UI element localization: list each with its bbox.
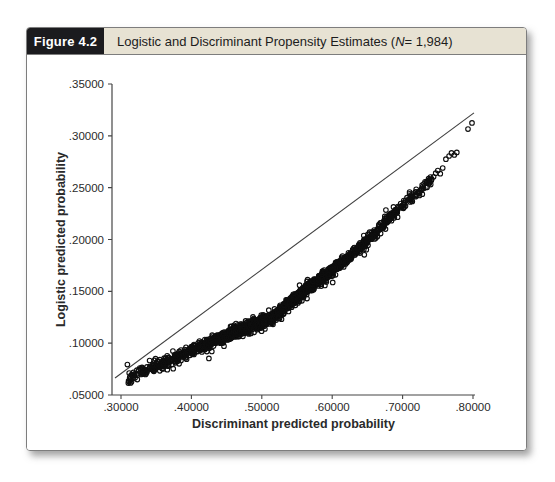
scatter-point bbox=[171, 366, 176, 371]
scatter-point bbox=[440, 166, 445, 171]
figure-title: Logistic and Discriminant Propensity Est… bbox=[104, 28, 526, 54]
scatter-plot: .30000.40000.50000.60000.70000.80000.050… bbox=[27, 55, 526, 451]
figure-number-label: Figure 4.2 bbox=[27, 28, 104, 54]
figure-title-text: Logistic and Discriminant Propensity Est… bbox=[117, 34, 395, 49]
scatter-points bbox=[125, 121, 474, 386]
scatter-point bbox=[125, 362, 130, 367]
figure-title-n: N bbox=[395, 34, 404, 49]
figure-header: Figure 4.2 Logistic and Discriminant Pro… bbox=[27, 28, 526, 55]
figure-box: Figure 4.2 Logistic and Discriminant Pro… bbox=[26, 27, 527, 451]
y-axis: .05000.10000.15000.20000.25000.30000.350… bbox=[69, 78, 112, 401]
x-axis: .30000.40000.50000.60000.70000.80000 bbox=[103, 395, 490, 413]
x-tick-label: .80000 bbox=[455, 401, 490, 413]
scatter-point bbox=[470, 121, 475, 126]
y-tick-label: .10000 bbox=[69, 337, 104, 349]
x-tick-label: .50000 bbox=[244, 401, 279, 413]
figure-title-suffix: = 1,984) bbox=[405, 34, 453, 49]
y-tick-label: .35000 bbox=[69, 78, 104, 90]
scatter-point bbox=[384, 208, 389, 213]
y-tick-label: .30000 bbox=[69, 130, 104, 142]
scatter-point bbox=[297, 283, 302, 288]
scatter-point bbox=[330, 280, 335, 285]
y-tick-label: .05000 bbox=[69, 389, 104, 401]
x-tick-label: .40000 bbox=[174, 401, 209, 413]
scatter-point bbox=[207, 356, 212, 361]
y-tick-label: .15000 bbox=[69, 285, 104, 297]
scatter-point bbox=[438, 171, 443, 176]
x-axis-title: Discriminant predicted probability bbox=[192, 417, 395, 431]
scatter-point bbox=[466, 127, 471, 132]
chart-area: .30000.40000.50000.60000.70000.80000.050… bbox=[27, 55, 526, 451]
scatter-point bbox=[171, 349, 176, 354]
y-tick-label: .20000 bbox=[69, 234, 104, 246]
y-tick-label: .25000 bbox=[69, 182, 104, 194]
y-axis-title: Logistic predicted probability bbox=[54, 152, 68, 327]
reference-line bbox=[115, 113, 474, 378]
x-tick-label: .70000 bbox=[385, 401, 420, 413]
scatter-point bbox=[362, 253, 367, 258]
x-tick-label: .60000 bbox=[315, 401, 350, 413]
x-tick-label: .30000 bbox=[103, 401, 138, 413]
scatter-point bbox=[267, 308, 272, 313]
